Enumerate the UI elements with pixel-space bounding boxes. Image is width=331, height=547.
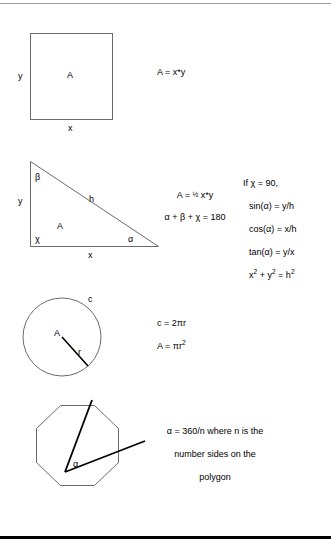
- polygon-note-line-1: α = 360/n where n is the: [150, 426, 280, 438]
- triangle-side-note: If χ = 90, sin(α) = y/h cos(α) = x/h tan…: [243, 166, 296, 293]
- side-note-sin: sin(α) = y/h: [243, 201, 296, 213]
- triangle-area-formula: A = ½ x*y: [145, 189, 245, 201]
- triangle-formula-block: A = ½ x*y α + β + χ = 180: [145, 177, 245, 235]
- side-note-condition: If χ = 90,: [243, 178, 296, 190]
- circle-area-prefix: A = πr: [157, 341, 182, 351]
- triangle-angle-sum-formula: α + β + χ = 180: [145, 212, 245, 224]
- triangle-label-h: h: [89, 194, 94, 204]
- triangle-label-y: y: [18, 196, 23, 206]
- triangle-label-beta: β: [35, 172, 40, 182]
- polygon-note-line-3: polygon: [150, 472, 280, 484]
- pythagoras-exp-3: 2: [291, 268, 295, 275]
- square-area-formula: A = x*y: [157, 67, 185, 79]
- circle-area-formula: A = πr2: [157, 341, 186, 353]
- square-label-x: x: [68, 123, 73, 133]
- circle-label-area: A: [54, 328, 60, 338]
- circle-formula-block: c = 2πr A = πr2: [157, 306, 186, 364]
- circle-label-radius: r: [78, 347, 81, 357]
- triangle-area-prefix: A =: [177, 189, 193, 199]
- polygon-note-block: α = 360/n where n is the number sides on…: [150, 414, 280, 495]
- triangle-label-chi: χ: [35, 234, 40, 244]
- polygon-label-alpha: α: [73, 459, 78, 469]
- formula-sheet-page: y A x A = x*y β y h A χ α x A = ½ x*y α …: [0, 0, 331, 547]
- circle-radius-line: [62, 337, 88, 366]
- triangle-label-alpha: α: [128, 234, 133, 244]
- square-label-area: A: [67, 70, 73, 80]
- square-label-y: y: [18, 71, 23, 81]
- polygon-note-line-2: number sides on the: [150, 449, 280, 461]
- side-note-pythagoras: x2 + y2 = h2: [243, 270, 296, 282]
- pythagoras-plus-y: + y: [257, 270, 272, 280]
- circle-circumference-formula: c = 2πr: [157, 318, 186, 330]
- triangle-label-area: A: [57, 221, 63, 231]
- circle-shape: [23, 298, 101, 376]
- pythagoras-equals-h: = h: [276, 270, 291, 280]
- triangle-area-suffix: x*y: [198, 189, 213, 199]
- side-note-tan: tan(α) = y/x: [243, 247, 296, 259]
- side-note-cos: cos(α) = x/h: [243, 224, 296, 236]
- circle-area-exponent: 2: [182, 339, 186, 346]
- octagon-ray-upper: [65, 400, 92, 472]
- triangle-label-x: x: [88, 250, 93, 260]
- bottom-divider-rule: [0, 536, 331, 539]
- top-divider-rule: [0, 3, 331, 4]
- circle-label-c: c: [88, 294, 93, 304]
- triangle-shape: [31, 162, 159, 247]
- octagon-shape: [37, 406, 119, 486]
